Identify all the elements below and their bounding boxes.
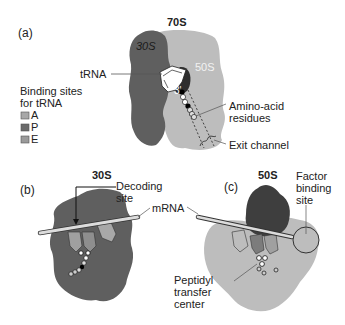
exit-channel-label: Exit channel bbox=[229, 139, 289, 151]
amino-acid-label-2: residues bbox=[229, 112, 271, 124]
panel-c-title: 50S bbox=[258, 169, 278, 181]
legend-label-e: E bbox=[31, 133, 38, 145]
peptidyl-label-2: transfer bbox=[174, 286, 212, 298]
panel-b: (b) 30S Decoding site mRNA bbox=[20, 169, 185, 301]
legend-label-a: A bbox=[31, 109, 39, 121]
decoding-label-1: Decoding bbox=[116, 180, 162, 192]
trna-label: tRNA bbox=[80, 68, 107, 80]
panel-a-label: (a) bbox=[18, 26, 33, 40]
panel-c: (c) 50S Factor binding site Peptidyl tra… bbox=[174, 169, 331, 311]
ribosome-diagram: (a) 70S 30S 50S tRNA 3' Amino-acid resid… bbox=[0, 0, 345, 325]
panel-a: (a) 70S 30S 50S tRNA 3' Amino-acid resid… bbox=[18, 16, 289, 151]
panel-b-label: (b) bbox=[20, 183, 35, 197]
decoding-label-2: site bbox=[116, 192, 133, 204]
legend-title-1: Binding sites bbox=[20, 85, 83, 97]
peptidyl-label-3: center bbox=[174, 298, 205, 310]
factor-label-1: Factor bbox=[296, 170, 328, 182]
legend-swatch-a bbox=[21, 112, 29, 119]
panel-b-title: 30S bbox=[92, 169, 112, 181]
three-prime-label: 3' bbox=[174, 85, 182, 96]
subunit-50s-label: 50S bbox=[195, 61, 215, 73]
amino-acid-label-1: Amino-acid bbox=[229, 100, 284, 112]
factor-label-3: site bbox=[296, 194, 313, 206]
factor-label-2: binding bbox=[296, 182, 331, 194]
peptidyl-label-1: Peptidyl bbox=[174, 274, 213, 286]
panel-c-label: (c) bbox=[224, 180, 238, 194]
legend-swatch-p bbox=[21, 124, 29, 131]
legend-label-p: P bbox=[31, 121, 38, 133]
mrna-label: mRNA bbox=[152, 202, 185, 214]
legend-title-2: for tRNA bbox=[20, 97, 63, 109]
panel-a-title: 70S bbox=[167, 16, 187, 28]
binding-sites-legend: Binding sites for tRNA A P E bbox=[20, 85, 83, 145]
legend-swatch-e bbox=[21, 136, 29, 143]
subunit-30s-label: 30S bbox=[136, 40, 156, 52]
